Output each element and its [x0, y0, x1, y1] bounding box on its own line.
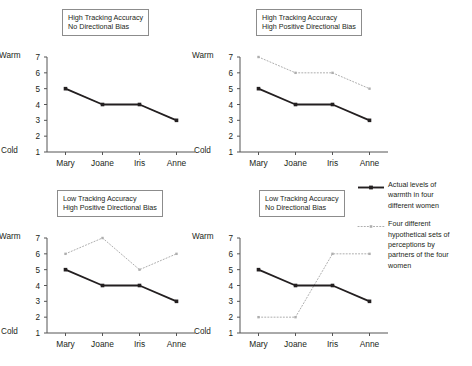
data-point-marker: [101, 237, 103, 239]
x-category-label: Mary: [56, 339, 75, 349]
panel-title-box: Low Tracking AccuracyHigh Positive Direc…: [57, 190, 163, 217]
data-point-marker: [257, 56, 259, 58]
data-point-marker: [175, 300, 179, 304]
data-point-marker: [64, 253, 66, 255]
x-category-label: Iris: [134, 158, 145, 168]
legend-label-line: warmth in four: [388, 190, 470, 200]
y-tick-label: 7: [228, 234, 233, 243]
panel-title-line: High Tracking Accuracy: [68, 13, 143, 22]
x-category-label: Anne: [167, 158, 187, 168]
x-category-label: Iris: [134, 339, 145, 349]
x-category-label: Mary: [249, 339, 268, 349]
y-tick-label: 3: [35, 297, 40, 306]
y-tick-label: 4: [228, 101, 233, 110]
data-point-marker: [64, 268, 68, 272]
series-line-solid: [259, 270, 370, 302]
data-point-marker: [175, 119, 179, 123]
y-tick-label: 1: [35, 329, 40, 338]
legend-label-line: Actual levels of: [388, 180, 470, 190]
y-tick-label: 1: [35, 148, 40, 157]
data-point-marker: [257, 316, 259, 318]
legend-item: Actual levels ofwarmth in fourdifferent …: [358, 180, 470, 211]
x-category-label: Joane: [91, 158, 114, 168]
y-axis-top-label-warm: Warm: [192, 232, 214, 241]
x-category-label: Joane: [284, 339, 307, 349]
data-point-marker: [331, 103, 335, 107]
data-point-marker: [257, 268, 261, 272]
y-axis-top-label-warm: Warm: [0, 51, 21, 60]
x-category-label: Mary: [56, 158, 75, 168]
panel-title-line: High Tracking Accuracy: [262, 13, 356, 22]
series-line-solid: [66, 89, 177, 121]
y-tick-label: 4: [35, 101, 40, 110]
data-point-marker: [331, 253, 333, 255]
plot-area-panel-high-accuracy-high-bias: 1234567MaryJoaneIrisAnne: [218, 47, 406, 176]
y-axis-bottom-label-cold: Cold: [194, 327, 211, 336]
data-point-marker: [138, 103, 142, 107]
data-point-marker: [138, 284, 142, 288]
data-point-marker: [368, 119, 372, 123]
y-tick-label: 5: [228, 266, 233, 275]
panel-title-line: High Positive Directional Bias: [63, 203, 157, 212]
series-line-dotted: [259, 57, 370, 89]
panel-title-line: Low Tracking Accuracy: [265, 194, 339, 203]
x-category-label: Joane: [284, 158, 307, 168]
y-tick-label: 5: [35, 266, 40, 275]
x-category-label: Joane: [91, 339, 114, 349]
legend-item: Four differenthypothetical sets ofpercep…: [358, 219, 470, 271]
panel-title-line: No Directional Bias: [68, 22, 143, 31]
plot-area-panel-high-accuracy-no-bias: 1234567MaryJoaneIrisAnne: [25, 47, 213, 176]
y-tick-label: 4: [228, 282, 233, 291]
data-point-marker: [331, 284, 335, 288]
legend-swatch-solid-icon: [358, 184, 384, 190]
x-category-label: Anne: [360, 158, 380, 168]
y-tick-label: 3: [228, 116, 233, 125]
data-point-marker: [101, 284, 105, 288]
chart-legend: Actual levels ofwarmth in fourdifferent …: [358, 180, 470, 279]
legend-label-line: different women: [388, 201, 470, 211]
y-tick-label: 6: [35, 250, 40, 259]
y-axis-top-label-warm: Warm: [192, 51, 214, 60]
y-tick-label: 1: [228, 148, 233, 157]
y-tick-label: 1: [228, 329, 233, 338]
data-point-marker: [294, 72, 296, 74]
y-tick-label: 4: [35, 282, 40, 291]
panel-title-box: Low Tracking AccuracyNo Directional Bias: [259, 190, 345, 217]
panel-title-box: High Tracking AccuracyHigh Positive Dire…: [256, 9, 362, 36]
legend-label-line: hypothetical sets of: [388, 230, 470, 240]
data-point-marker: [368, 300, 372, 304]
panel-title-line: No Directional Bias: [265, 203, 339, 212]
y-tick-label: 2: [35, 313, 40, 322]
legend-label: Four differenthypothetical sets ofpercep…: [388, 219, 470, 271]
legend-label-line: perceptions by: [388, 240, 470, 250]
legend-label-line: women: [388, 261, 470, 271]
y-tick-label: 7: [35, 53, 40, 62]
series-line-dotted: [66, 238, 177, 270]
y-tick-label: 5: [35, 85, 40, 94]
plot-area-panel-low-accuracy-high-bias: 1234567MaryJoaneIrisAnne: [25, 228, 213, 357]
y-tick-label: 2: [228, 132, 233, 141]
y-tick-label: 3: [228, 297, 233, 306]
y-tick-label: 6: [35, 69, 40, 78]
y-tick-label: 6: [228, 250, 233, 259]
y-axis-bottom-label-cold: Cold: [1, 327, 18, 336]
series-line-solid: [66, 270, 177, 302]
x-category-label: Iris: [327, 158, 338, 168]
panel-title-line: High Positive Directional Bias: [262, 22, 356, 31]
legend-swatch-dotted-icon: [358, 223, 384, 229]
data-point-marker: [294, 316, 296, 318]
figure-canvas: High Tracking AccuracyNo Directional Bia…: [0, 0, 472, 366]
data-point-marker: [294, 103, 298, 107]
y-axis-top-label-warm: Warm: [0, 232, 21, 241]
data-point-marker: [101, 103, 105, 107]
y-tick-label: 7: [35, 234, 40, 243]
data-point-marker: [294, 284, 298, 288]
legend-label-line: partners of the four: [388, 250, 470, 260]
series-line-solid: [259, 89, 370, 121]
x-category-label: Anne: [360, 339, 380, 349]
data-point-marker: [331, 72, 333, 74]
y-tick-label: 5: [228, 85, 233, 94]
y-tick-label: 6: [228, 69, 233, 78]
data-point-marker: [368, 87, 370, 89]
y-tick-label: 3: [35, 116, 40, 125]
